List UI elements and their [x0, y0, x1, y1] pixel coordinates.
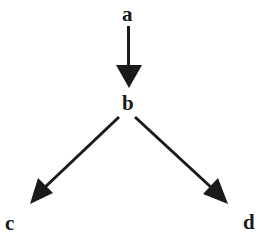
edge-b-d: [135, 117, 228, 204]
edge-b-c: [30, 117, 119, 204]
node-d: d: [243, 212, 255, 233]
arrowhead-icon: [116, 65, 142, 88]
node-b: b: [122, 93, 134, 114]
tree-diagram: [0, 0, 266, 239]
node-c: c: [5, 213, 14, 234]
node-a: a: [122, 4, 133, 25]
edge-a-b: [116, 26, 142, 88]
